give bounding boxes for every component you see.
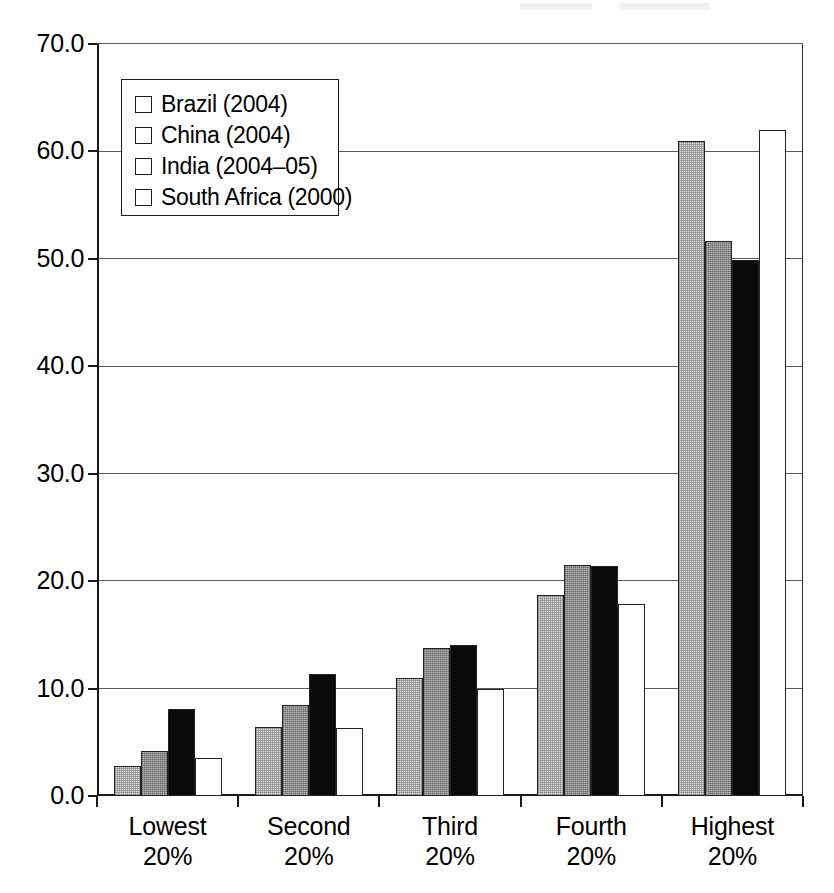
x-tick-label-line2: 20% [238, 842, 379, 872]
bar [423, 648, 450, 796]
x-tick-label: Highest20% [662, 812, 803, 871]
legend-item: China (2004) [135, 120, 338, 150]
x-tick-mark [96, 796, 98, 807]
y-tick-label: 70.0 [0, 31, 84, 56]
bar [618, 604, 645, 796]
bar [705, 241, 732, 796]
legend-label: Brazil (2004) [161, 93, 288, 116]
y-tick-label: 20.0 [0, 568, 84, 593]
bar [309, 674, 336, 796]
x-tick-label: Fourth20% [521, 812, 662, 871]
bar [450, 645, 477, 796]
scan-artifact [520, 3, 710, 10]
bar [336, 728, 363, 796]
y-tick-label: 50.0 [0, 246, 84, 271]
x-tick-mark [520, 796, 522, 807]
y-tick-label: 40.0 [0, 353, 84, 378]
x-tick-label-line1: Highest [691, 812, 774, 840]
legend: Brazil (2004)China (2004)India (2004–05)… [121, 79, 339, 216]
y-tick-mark [88, 150, 97, 152]
y-tick-label: 10.0 [0, 676, 84, 701]
y-tick-label: 0.0 [0, 783, 84, 808]
y-tick-mark [88, 580, 97, 582]
legend-swatch-icon [135, 96, 152, 113]
legend-label: China (2004) [161, 124, 290, 147]
x-tick-label-line1: Second [267, 812, 351, 840]
y-tick-label: 30.0 [0, 461, 84, 486]
x-tick-mark [661, 796, 663, 807]
x-tick-label-line2: 20% [521, 842, 662, 872]
y-tick-mark [88, 365, 97, 367]
x-tick-label: Third20% [379, 812, 520, 871]
legend-swatch-icon [135, 158, 152, 175]
bar [678, 141, 705, 796]
bar [168, 709, 195, 796]
bar [564, 565, 591, 796]
bar [759, 130, 786, 796]
bar [396, 678, 423, 796]
y-tick-mark [88, 43, 97, 45]
bar-chart: 0.010.020.030.040.050.060.070.0 Lowest20… [0, 0, 834, 893]
x-tick-label-line1: Third [422, 812, 478, 840]
legend-item: South Africa (2000) [135, 182, 338, 212]
bar [732, 260, 759, 796]
legend-swatch-icon [135, 127, 152, 144]
x-tick-mark [802, 796, 804, 807]
y-tick-mark [88, 258, 97, 260]
bar [255, 727, 282, 796]
bar [591, 566, 618, 796]
x-tick-label-line2: 20% [662, 842, 803, 872]
x-tick-label-line2: 20% [379, 842, 520, 872]
legend-label: India (2004–05) [161, 155, 318, 178]
y-tick-mark [88, 473, 97, 475]
x-tick-label-line1: Lowest [129, 812, 207, 840]
bar [477, 689, 504, 796]
x-tick-label-line1: Fourth [556, 812, 627, 840]
bar [282, 705, 309, 796]
bar [195, 758, 222, 796]
legend-item: Brazil (2004) [135, 89, 338, 119]
x-tick-label-line2: 20% [97, 842, 238, 872]
plot-frame-right-edge [802, 44, 803, 796]
legend-label: South Africa (2000) [161, 186, 352, 209]
x-tick-mark [378, 796, 380, 807]
legend-swatch-icon [135, 189, 152, 206]
x-tick-label: Lowest20% [97, 812, 238, 871]
bar [141, 751, 168, 796]
bar [537, 595, 564, 796]
bar [114, 766, 141, 796]
x-tick-mark [237, 796, 239, 807]
y-tick-mark [88, 688, 97, 690]
y-tick-label: 60.0 [0, 138, 84, 163]
legend-item: India (2004–05) [135, 151, 338, 181]
x-tick-label: Second20% [238, 812, 379, 871]
